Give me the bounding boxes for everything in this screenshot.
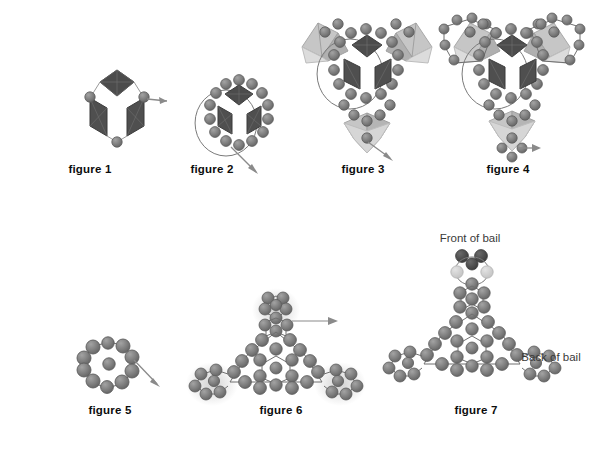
corner-loop-left <box>383 346 422 382</box>
thread-arrow <box>231 147 258 174</box>
figure-3-graphic <box>292 5 442 170</box>
figure-2-caption: figure 2 <box>190 163 233 175</box>
pendant-body <box>421 314 524 376</box>
figure-7-caption: figure 7 <box>454 404 497 416</box>
figure-1-panel <box>55 60 185 170</box>
figure-3-caption: figure 3 <box>341 163 384 175</box>
bead <box>139 92 149 102</box>
figure-6-graphic <box>190 292 365 412</box>
bead-ring-outer <box>195 75 273 156</box>
figure-7-graphic <box>386 248 566 398</box>
figure-3-panel <box>292 5 442 170</box>
figure-1-graphic <box>55 60 185 170</box>
figure-4-panel <box>432 5 592 170</box>
figure-1-caption: figure 1 <box>68 163 111 175</box>
trigonal-unit <box>218 85 261 134</box>
figure-4-caption: figure 4 <box>486 163 529 175</box>
annotation-back-of-bail: Back of bail <box>521 351 580 363</box>
figure-4-graphic <box>432 5 592 170</box>
thread-arrow <box>147 97 167 104</box>
bail-back-bead <box>481 266 493 278</box>
figure-5-graphic <box>62 330 172 405</box>
thread-arrow <box>292 317 338 325</box>
bail-back-bead <box>451 266 463 278</box>
bead <box>85 92 95 102</box>
figure-7-panel <box>386 248 566 398</box>
figure-5-caption: figure 5 <box>88 404 131 416</box>
trigonal-unit <box>85 70 149 147</box>
trigonal-unit <box>344 35 391 89</box>
bead-ring-outer <box>77 337 139 394</box>
thread-arrow <box>368 142 393 161</box>
annotation-front-of-bail: Front of bail <box>440 232 501 244</box>
figure-5-panel <box>62 330 172 405</box>
pendant-body <box>228 332 325 394</box>
figure-board: figure 1 <box>0 0 615 456</box>
figure-6-panel <box>190 292 365 412</box>
bead <box>112 137 122 147</box>
figure-6-caption: figure 6 <box>259 404 302 416</box>
